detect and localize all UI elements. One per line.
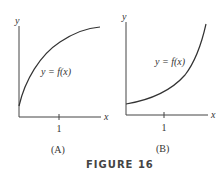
figure-16: y x 1 y = f(x) (A) y x 1 y = f(x) (B) FI… bbox=[0, 0, 224, 176]
panel-label-b: (B) bbox=[156, 143, 169, 155]
tick-label-a: 1 bbox=[57, 123, 62, 134]
curve-label-b: y = f(x) bbox=[154, 56, 186, 68]
y-axis-label-b: y bbox=[121, 11, 127, 22]
panel-a: y x 1 y = f(x) (A) bbox=[14, 15, 109, 156]
y-axis-label-a: y bbox=[14, 15, 20, 26]
tick-label-b: 1 bbox=[162, 122, 167, 133]
curve-label-a: y = f(x) bbox=[40, 66, 72, 78]
x-axis-label-b: x bbox=[210, 109, 216, 120]
figure-caption: FIGURE 16 bbox=[86, 159, 154, 170]
panel-label-a: (A) bbox=[51, 144, 65, 156]
panel-b: y x 1 y = f(x) (B) bbox=[121, 11, 216, 155]
x-axis-label-a: x bbox=[103, 111, 109, 122]
